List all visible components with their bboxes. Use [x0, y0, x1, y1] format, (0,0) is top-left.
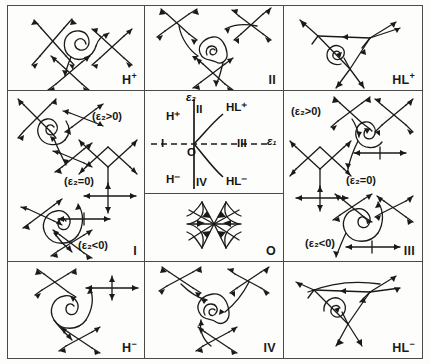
bif-label-h-minus: H⁻	[166, 172, 180, 186]
phase-portrait-hl-minus: HL−	[284, 262, 422, 358]
eps-note-zero-iii: (ε₂=0)	[346, 174, 376, 186]
region-ii-drawing	[145, 6, 284, 91]
bif-label-origin: O	[187, 146, 196, 158]
bif-label-region-iii: III	[237, 137, 247, 149]
cell-label-region-iii: III	[404, 244, 415, 258]
eps-note-negative-i: (ε₂<0)	[78, 239, 108, 251]
cell-label-origin: O	[266, 244, 276, 258]
phase-portrait-region-i: (ε₂>0) (ε₂=0) (ε₂<0) I	[8, 91, 145, 262]
figure-root: H+	[0, 0, 430, 364]
cell-label-region-i: I	[133, 244, 137, 258]
bif-label-region-iv: IV	[196, 176, 207, 188]
bif-label-region-ii: II	[196, 103, 202, 115]
phase-portrait-region-ii: II	[145, 6, 284, 91]
phase-portrait-h-minus: H−	[8, 262, 145, 358]
origin-drawing	[145, 194, 284, 262]
phase-portrait-h-plus: H+	[8, 6, 145, 91]
cell-label-region-iv: IV	[264, 341, 276, 355]
phase-portrait-region-iii: (ε₂>0) (ε₂=0) (ε₂<0) III	[284, 91, 422, 262]
bif-label-region-i: I	[161, 137, 164, 149]
lower-branch	[194, 144, 223, 177]
cell-label-region-ii: II	[268, 73, 276, 87]
bifurcation-diagram: ε₂ ε₁ O I III II IV H⁺ HL⁺ H⁻ HL⁻	[145, 91, 284, 194]
phase-portrait-region-iv: IV	[145, 262, 284, 358]
bif-label-hl-minus: HL⁻	[226, 174, 247, 188]
phase-portrait-origin: O	[145, 194, 284, 262]
cell-label-hl-minus: HL−	[392, 339, 415, 355]
axis-label-epsilon1: ε₁	[267, 135, 277, 147]
eps-note-negative-iii: (ε₂<0)	[305, 237, 335, 249]
cell-label-hl-plus: HL+	[392, 71, 415, 87]
axis-label-epsilon2: ε₂	[186, 91, 196, 103]
cell-label-h-minus: H−	[122, 339, 137, 355]
eps-note-positive-iii: (ε₂>0)	[291, 105, 321, 117]
bif-label-hl-plus: HL⁺	[226, 100, 247, 114]
phase-portrait-hl-plus: HL+	[284, 6, 422, 91]
bif-label-h-plus: H⁺	[166, 109, 180, 123]
upper-branch	[194, 114, 223, 144]
cell-label-h-plus: H+	[122, 71, 137, 87]
eps-note-zero-i: (ε₂=0)	[64, 175, 94, 187]
eps-note-positive-i: (ε₂>0)	[92, 110, 122, 122]
